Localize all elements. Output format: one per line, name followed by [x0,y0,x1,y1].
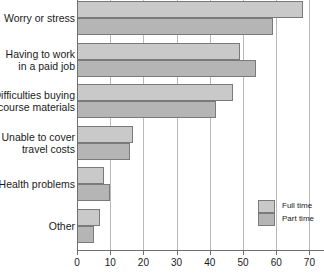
category-label: Difficulties buying course materials [0,89,75,113]
x-tick-label-30: 30 [171,257,182,268]
bar [77,143,130,160]
x-tick-40 [210,250,211,255]
y-axis-line [77,0,78,251]
legend-swatch-full-time-icon [258,200,275,213]
bar-chart: 010203040506070 Worry or stressHaving to… [0,0,324,273]
category-label: Unable to cover travel costs [0,131,75,155]
x-axis-line [77,250,324,251]
x-tick-30 [177,250,178,255]
bar [77,209,100,226]
category-label: Worry or stress [0,12,75,24]
bar [77,226,94,243]
x-tick-0 [77,250,78,255]
bar [77,184,110,201]
x-tick-20 [143,250,144,255]
x-tick-60 [276,250,277,255]
category-label: Having to work in a paid job [0,48,75,72]
legend-swatch-part-time-icon [258,213,275,226]
x-tick-label-70: 70 [304,257,315,268]
x-tick-50 [243,250,244,255]
bar [77,126,133,143]
bar [77,60,256,77]
bar [77,18,273,35]
x-tick-label-50: 50 [237,257,248,268]
x-tick-10 [110,250,111,255]
x-tick-label-0: 0 [74,257,80,268]
bar [77,167,104,184]
x-tick-label-60: 60 [271,257,282,268]
bar [77,1,303,18]
x-tick-label-20: 20 [138,257,149,268]
bar [77,84,233,101]
legend-label-part-time: Part time [282,214,314,224]
x-tick-70 [309,250,310,255]
bar [77,101,216,118]
category-label: Health problems [0,178,75,190]
legend-label-full-time: Full time [282,201,312,211]
x-tick-label-40: 40 [204,257,215,268]
bar [77,43,240,60]
bars-layer [77,0,324,250]
x-tick-label-10: 10 [105,257,116,268]
category-label: Other [0,220,75,232]
